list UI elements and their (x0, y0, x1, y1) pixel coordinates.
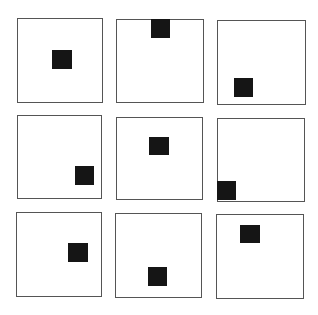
black-square (52, 50, 72, 69)
grid-cell-r2-c1 (17, 115, 102, 199)
grid-cell-r3-c1 (16, 212, 102, 297)
grid-cell-r2-c2 (116, 117, 203, 200)
black-square (68, 243, 88, 262)
black-square (240, 225, 260, 243)
black-square (75, 166, 94, 185)
black-square (234, 78, 253, 97)
black-square (217, 181, 236, 200)
black-square (148, 267, 167, 286)
grid-cell-r3-c3 (216, 214, 304, 299)
grid-cell-r1-c3 (217, 20, 306, 105)
black-square (151, 19, 170, 38)
black-square (149, 137, 169, 155)
